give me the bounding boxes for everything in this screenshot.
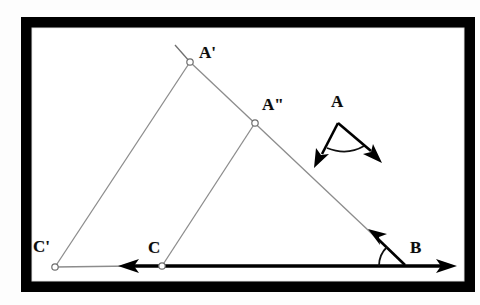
- point-label-C-prime: C': [33, 238, 50, 255]
- frame-interior: [33, 29, 464, 281]
- point-label-A-prime: A': [199, 44, 216, 61]
- point-label-A: A: [331, 93, 343, 110]
- picture-frame: [22, 18, 475, 292]
- point-label-A-double-prime: A": [262, 96, 284, 113]
- vertex-marker-C: [159, 263, 165, 269]
- point-label-B: B: [410, 239, 421, 256]
- vertex-marker-A-prime: [187, 59, 193, 65]
- vertex-marker-A-double-prime: [252, 120, 258, 126]
- geometry-figure: [0, 0, 480, 305]
- point-label-C: C: [148, 239, 160, 256]
- diagram-canvas: A' A" C' C B A: [0, 0, 480, 305]
- vertex-marker-C-prime: [52, 264, 58, 270]
